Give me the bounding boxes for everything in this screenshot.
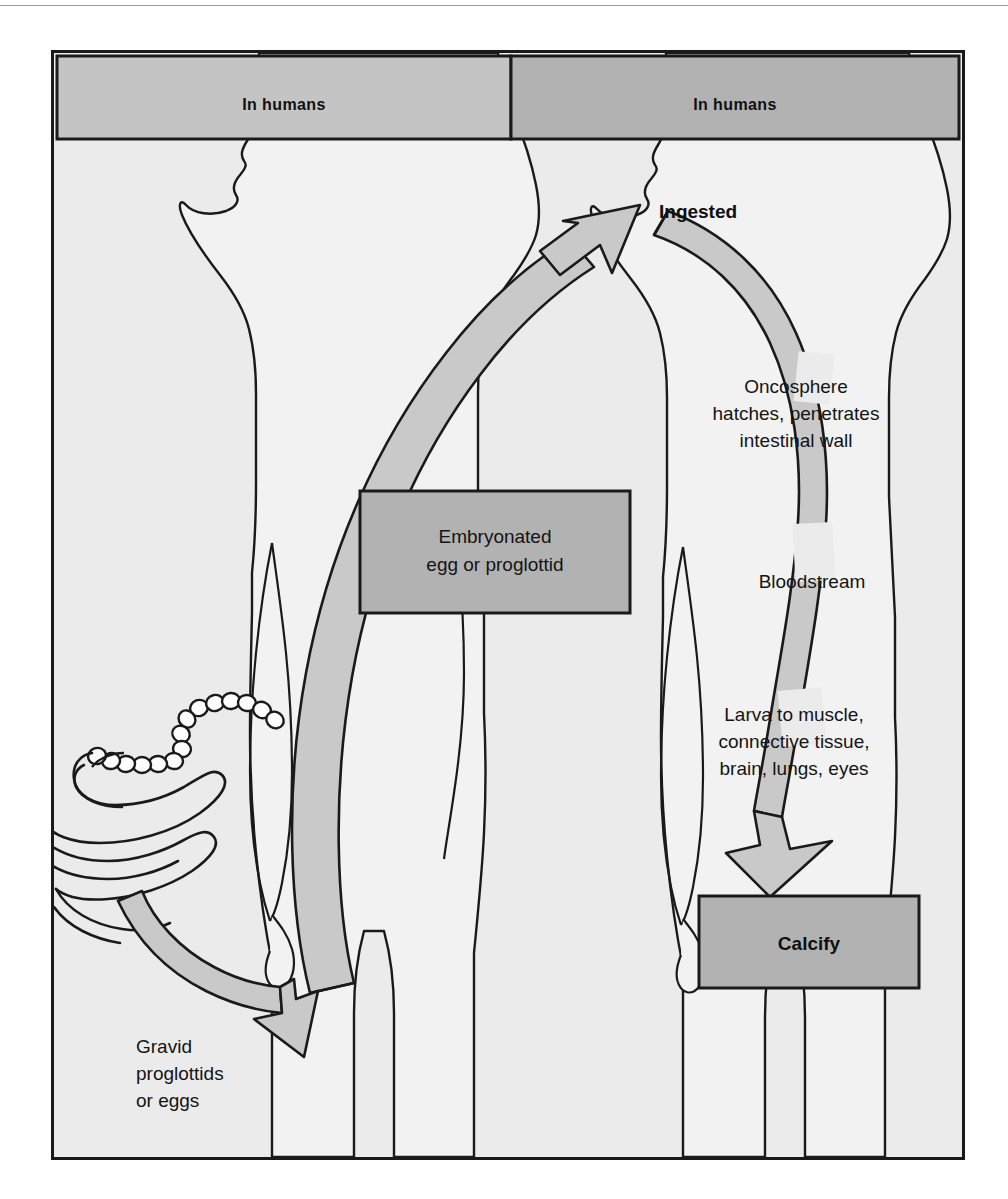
header-bar-right[interactable]: In humans <box>511 56 959 139</box>
larva-line2: connective tissue, <box>718 731 869 752</box>
calcify-label: Calcify <box>778 933 841 954</box>
label-bloodstream: Bloodstream <box>759 571 866 592</box>
oncosphere-line2: hatches, penetrates <box>713 403 880 424</box>
figure-frame: In humans In humans Embryonated egg or p… <box>51 50 965 1160</box>
lifecycle-diagram: In humans In humans Embryonated egg or p… <box>54 53 962 1157</box>
label-larva: Larva to muscle, connective tissue, brai… <box>718 704 869 779</box>
gravid-line2: proglottids <box>136 1063 224 1084</box>
oncosphere-line3: intestinal wall <box>740 430 853 451</box>
box-calcify[interactable]: Calcify <box>699 896 919 988</box>
box-embryonated-egg[interactable]: Embryonated egg or proglottid <box>360 491 630 613</box>
page-top-rule <box>0 5 1008 6</box>
header-bar-left[interactable]: In humans <box>57 56 511 139</box>
header-left-label: In humans <box>242 96 326 113</box>
larva-line1: Larva to muscle, <box>724 704 863 725</box>
embryonated-line2: egg or proglottid <box>426 554 563 575</box>
embryonated-line1: Embryonated <box>438 526 551 547</box>
gravid-line3: or eggs <box>136 1090 199 1111</box>
header-right-label: In humans <box>693 96 777 113</box>
gravid-line1: Gravid <box>136 1036 192 1057</box>
oncosphere-line1: Oncosphere <box>744 376 848 397</box>
page-root: In humans In humans Embryonated egg or p… <box>0 0 1008 1199</box>
larva-line3: brain, lungs, eyes <box>720 758 869 779</box>
label-ingested: Ingested <box>659 201 737 222</box>
